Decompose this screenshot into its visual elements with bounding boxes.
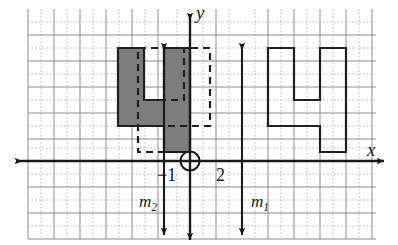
y-axis-label: y	[196, 3, 204, 22]
mirror-line-m1-label: m1	[251, 193, 269, 214]
coordinate-grid-figure	[0, 0, 398, 245]
mirror-line-m2-label-main: m	[139, 192, 151, 211]
mirror-line-m2-label-subscript: 2	[151, 201, 157, 214]
grid-solid-lines	[28, 9, 376, 239]
shaded-polygon-preimage	[118, 48, 190, 152]
mirror-line-m2-label: m2	[139, 193, 157, 214]
x-tick-label-two: 2	[216, 166, 225, 184]
figure-canvas: y x −1 2 m2 m1	[0, 0, 398, 245]
mirror-line-m1-label-subscript: 1	[263, 201, 269, 214]
x-tick-label-negative-one: −1	[157, 166, 176, 184]
mirror-line-m1-label-main: m	[251, 192, 263, 211]
x-axis-label: x	[367, 140, 375, 159]
